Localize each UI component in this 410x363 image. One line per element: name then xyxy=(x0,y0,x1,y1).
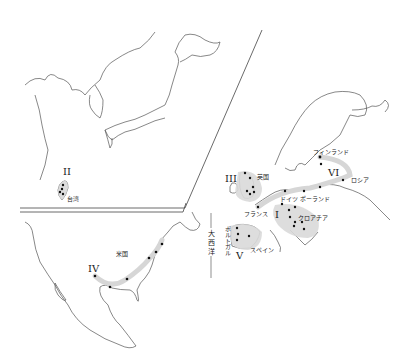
label-france: フランス xyxy=(244,211,268,217)
map-canvas xyxy=(0,0,410,363)
gulf-coast xyxy=(100,212,200,346)
label-spain: スペイン xyxy=(250,247,274,253)
label-russia: ロシア xyxy=(351,177,369,183)
japan-honshu xyxy=(105,52,179,130)
label-portugal: ポルトガル xyxy=(223,226,232,256)
japan-south xyxy=(105,118,165,140)
region-label-iii: III xyxy=(225,174,237,184)
label-taiwan: 台湾 xyxy=(67,196,79,202)
kyushu xyxy=(105,130,112,148)
region-label-i: I xyxy=(275,210,279,220)
region-label-v: V xyxy=(236,251,243,261)
label-usa: 米国 xyxy=(116,251,128,257)
hokkaido xyxy=(175,34,220,62)
label-finland: フィンランド xyxy=(313,149,349,155)
region-label-ii: II xyxy=(63,167,71,177)
kola xyxy=(352,100,389,112)
americas-panel-frame xyxy=(20,203,186,212)
label-croatia: クロアチア xyxy=(298,215,328,221)
label-uk: 英国 xyxy=(257,174,269,180)
china-east-coast xyxy=(35,95,48,180)
label-poland: ポーランド xyxy=(300,196,330,202)
china-coast xyxy=(25,32,155,95)
korea-coast xyxy=(89,85,103,118)
label-germany: ドイツ xyxy=(280,196,298,202)
region-label-vi: VI xyxy=(328,168,339,178)
baja xyxy=(55,283,66,300)
label-atlantic: 大西洋 xyxy=(206,230,216,257)
route-iv xyxy=(95,240,162,284)
region-label-iv: IV xyxy=(88,264,99,274)
